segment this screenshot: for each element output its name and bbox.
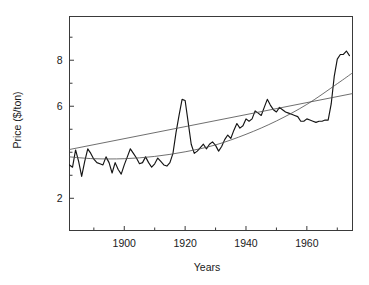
y-axis-title: Price ($/ton): [11, 91, 23, 148]
x-axis-tick-label: 1940: [234, 237, 258, 249]
x-axis-tick-label: 1900: [113, 237, 137, 249]
x-axis-tick-label: 1960: [295, 237, 319, 249]
x-axis-tick-label: 1920: [173, 237, 197, 249]
y-axis-tick-label: 6: [57, 100, 63, 112]
chart-figure: 268 1900192019401960 Price ($/ton) Years: [0, 0, 369, 285]
price-over-years-line-chart: 268 1900192019401960 Price ($/ton) Years: [0, 0, 369, 285]
x-axis-title: Years: [194, 261, 220, 273]
y-axis-tick-label: 2: [57, 192, 63, 204]
y-axis-tick-label: 8: [57, 54, 63, 66]
